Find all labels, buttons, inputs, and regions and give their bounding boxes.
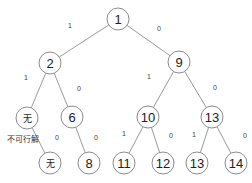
node-label: 1 xyxy=(114,12,121,27)
edge-label: 0 xyxy=(157,25,161,32)
edge-label: 1 xyxy=(24,74,28,81)
tree-diagram: 101010001010 129无61013无811121314 xyxy=(0,0,252,183)
node-label: 无 xyxy=(46,159,55,169)
edge-label: 1 xyxy=(147,73,151,80)
node-label: 10 xyxy=(141,110,155,125)
node-label: 13 xyxy=(205,110,219,125)
edge-label: 0 xyxy=(94,134,98,141)
tree-node: 13 xyxy=(201,106,223,128)
node-label: 13 xyxy=(190,156,204,171)
tree-edge xyxy=(185,71,207,107)
edge-label: 0 xyxy=(243,132,247,139)
tree-edge xyxy=(217,127,231,153)
tree-node: 10 xyxy=(137,106,159,128)
node-label: 8 xyxy=(85,156,92,171)
tree-edge xyxy=(127,25,170,55)
node-label: 无 xyxy=(23,114,32,124)
edge-label: 0 xyxy=(213,84,217,91)
node-label: 12 xyxy=(156,156,170,171)
edge-label: 0 xyxy=(77,85,81,92)
infeasible-annotation: 不可行解 xyxy=(7,133,39,144)
edge-label: 1 xyxy=(68,22,72,29)
tree-edge xyxy=(54,73,68,107)
tree-edge xyxy=(59,25,109,57)
node-label: 2 xyxy=(46,56,53,71)
tree-node: 2 xyxy=(39,52,61,74)
tree-node: 无 xyxy=(16,107,38,129)
tree-node: 11 xyxy=(113,152,135,174)
node-label: 11 xyxy=(117,156,131,171)
node-label: 9 xyxy=(175,55,182,70)
edge-label: 0 xyxy=(169,132,173,139)
tree-node: 1 xyxy=(107,8,129,30)
tree-edge xyxy=(153,72,173,108)
tree-edge xyxy=(200,127,208,152)
edge-label: 0 xyxy=(55,134,59,141)
node-label: 6 xyxy=(68,110,75,125)
tree-node: 14 xyxy=(225,152,247,174)
tree-node: 8 xyxy=(78,152,100,174)
tree-edge xyxy=(31,73,46,108)
tree-node: 6 xyxy=(61,106,83,128)
tree-node: 12 xyxy=(152,152,174,174)
tree-edge xyxy=(76,127,85,152)
tree-node: 13 xyxy=(186,152,208,174)
tree-node: 9 xyxy=(168,51,190,73)
edge-label: 1 xyxy=(192,131,196,138)
tree-edge xyxy=(151,127,159,152)
tree-node: 无 xyxy=(39,152,61,174)
tree-edge xyxy=(129,127,143,153)
node-label: 14 xyxy=(229,156,243,171)
edge-label: 1 xyxy=(122,130,126,137)
